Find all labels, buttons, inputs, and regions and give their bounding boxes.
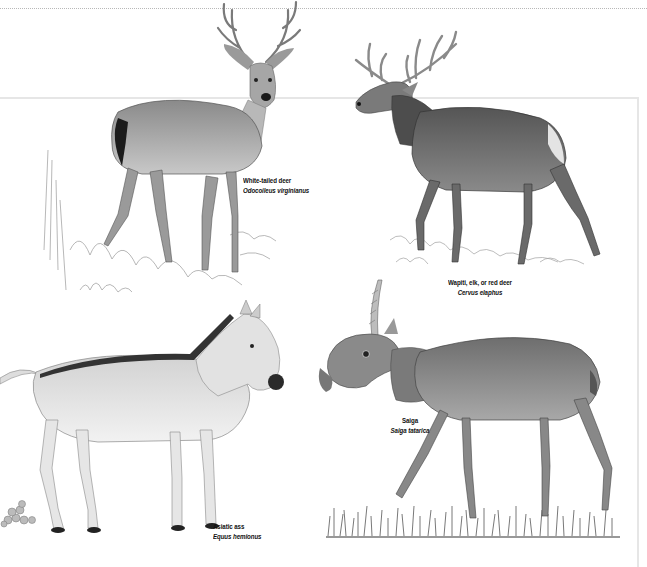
scientific-name: Cervus elaphus [431, 288, 529, 298]
asiatic-ass-illustration [0, 300, 284, 533]
scientific-name: Equus hemionus [213, 532, 261, 542]
common-name: Asiatic ass [213, 522, 261, 532]
wapiti-illustration [356, 32, 600, 264]
common-name: White-tailed deer [243, 176, 309, 186]
common-name: Saiga [385, 416, 434, 426]
caption-wapiti: Wapiti, elk, or red deer Cervus elaphus [431, 278, 529, 298]
dung-pile-icon [1, 501, 36, 528]
common-name: Wapiti, elk, or red deer [431, 278, 529, 288]
scientific-name: Saiga tatarica [385, 426, 434, 436]
saiga-illustration [319, 280, 620, 537]
caption-white-tailed-deer: White-tailed deer Odocoileus virginianus [243, 176, 309, 196]
caption-asiatic-ass: Asiatic ass Equus hemionus [213, 522, 261, 542]
caption-saiga: Saiga Saiga tatarica [385, 416, 434, 436]
scientific-name: Odocoileus virginianus [243, 186, 309, 196]
white-tailed-deer-illustration [44, 2, 300, 292]
